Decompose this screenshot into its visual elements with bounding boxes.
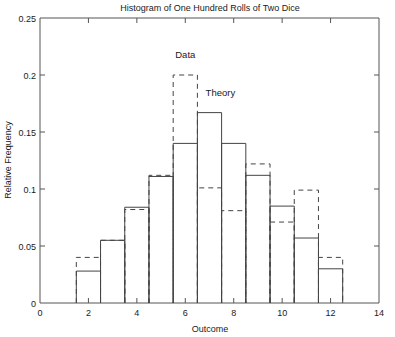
bar-theory-series xyxy=(197,113,221,303)
bar-data-series xyxy=(76,257,100,303)
plot-frame xyxy=(40,18,379,303)
y-tick-label: 0 xyxy=(31,299,36,309)
bar-data-series xyxy=(125,210,149,303)
histogram-svg: Histogram of One Hundred Rolls of Two Di… xyxy=(0,0,395,337)
bar-data-series xyxy=(173,75,197,303)
axes: 0246810121400.050.10.150.20.25 xyxy=(18,14,384,319)
bar-theory-series xyxy=(270,206,294,303)
bar-theory-series xyxy=(294,238,318,303)
bar-data-series xyxy=(318,257,342,303)
x-tick-label: 10 xyxy=(277,308,287,318)
y-tick-label: 0.25 xyxy=(18,14,36,24)
x-tick-label: 12 xyxy=(326,308,336,318)
bar-theory-series xyxy=(222,143,246,303)
x-tick-label: 0 xyxy=(37,308,42,318)
bar-data-series xyxy=(222,211,246,303)
chart-title: Histogram of One Hundred Rolls of Two Di… xyxy=(120,3,299,13)
x-tick-label: 8 xyxy=(231,308,236,318)
plot-bars xyxy=(76,75,342,303)
bar-theory-series xyxy=(173,143,197,303)
chart-figure: Histogram of One Hundred Rolls of Two Di… xyxy=(0,0,395,337)
bar-data-series xyxy=(197,188,221,303)
x-tick-label: 2 xyxy=(86,308,91,318)
annotation-label-data: Data xyxy=(175,49,196,60)
x-tick-label: 14 xyxy=(374,308,384,318)
annotation-label-theory: Theory xyxy=(206,87,236,98)
bar-theory-series xyxy=(149,176,173,303)
bar-data-series xyxy=(101,240,125,303)
y-tick-label: 0.15 xyxy=(18,128,36,138)
bar-data-series xyxy=(294,190,318,303)
chart-annotations: DataTheory xyxy=(175,49,235,98)
bar-data-series xyxy=(149,175,173,303)
y-tick-label: 0.05 xyxy=(18,242,36,252)
y-tick-label: 0.1 xyxy=(23,185,36,195)
x-tick-label: 4 xyxy=(134,308,139,318)
bar-theory-series xyxy=(101,240,125,303)
y-axis-title: Relative Frequency xyxy=(3,121,13,199)
bar-theory-series xyxy=(246,175,270,303)
bar-theory-series xyxy=(318,269,342,303)
bar-data-series xyxy=(246,164,270,303)
y-tick-label: 0.2 xyxy=(23,71,36,81)
bar-data-series xyxy=(270,222,294,303)
x-axis-title: Outcome xyxy=(192,324,229,334)
bar-theory-series xyxy=(125,207,149,303)
x-tick-label: 6 xyxy=(183,308,188,318)
